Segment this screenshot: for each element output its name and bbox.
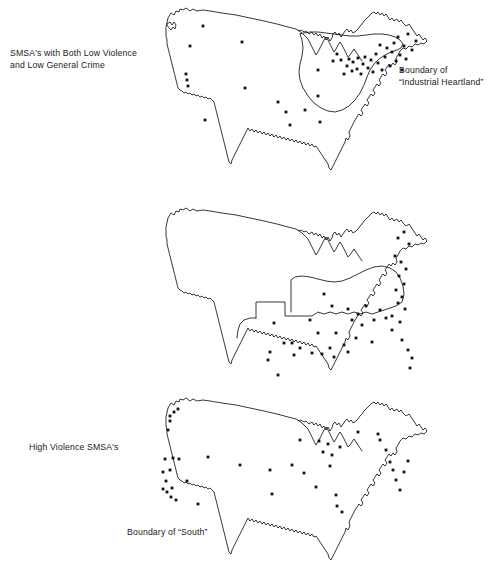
smsa-dot (405, 268, 408, 271)
smsa-dot (311, 352, 314, 355)
smsa-dot (283, 342, 286, 345)
smsa-dot (239, 464, 242, 467)
great-lakes-path (298, 230, 362, 261)
smsa-dot (175, 499, 178, 502)
smsa-dot (293, 354, 296, 357)
smsa-dot (347, 308, 350, 311)
smsa-dot (291, 342, 294, 345)
us-outline-path (166, 398, 427, 560)
smsa-dot (273, 322, 276, 325)
smsa-dot (364, 56, 367, 59)
us-outline-path (166, 8, 427, 170)
smsa-dot (329, 465, 332, 468)
smsa-dot (162, 471, 165, 474)
smsa-dot (397, 302, 400, 305)
smsa-dot (333, 356, 336, 359)
smsa-dot (185, 73, 188, 76)
smsa-dot (241, 41, 244, 44)
smsa-dot (336, 53, 339, 56)
smsa-dot (319, 121, 322, 124)
smsa-dot (360, 73, 363, 76)
smsa-dot (356, 68, 359, 71)
smsa-dot (164, 458, 167, 461)
smsa-dot (403, 45, 406, 48)
smsa-dot (399, 321, 402, 324)
smsa-dot (385, 317, 388, 320)
smsa-dot (341, 511, 344, 514)
smsa-dot (331, 305, 334, 308)
smsa-dot (167, 429, 170, 432)
smsa-dot (375, 53, 378, 56)
smsa-dot (409, 367, 412, 370)
smsa-dot (343, 73, 346, 76)
smsa-dot (401, 339, 404, 342)
smsa-dot (408, 243, 411, 246)
smsa-dot (395, 289, 398, 292)
smsa-dot (165, 480, 168, 483)
smsa-dot (162, 488, 165, 491)
smsa-dot (372, 71, 375, 74)
smsa-dot (407, 33, 410, 36)
smsa-dot (415, 40, 418, 43)
smsa-dot (186, 79, 189, 82)
smsa-dot (352, 61, 355, 64)
panel-0-side-label: Boundary of “Industrial Heartland” (399, 65, 483, 88)
smsa-dot (318, 440, 321, 443)
smsa-dot (299, 347, 302, 350)
smsa-dot (315, 486, 318, 489)
smsa-dot (403, 283, 406, 286)
smsa-dot (178, 458, 181, 461)
smsa-dot (277, 374, 280, 377)
smsa-dot (400, 261, 403, 264)
smsa-dot (391, 51, 394, 54)
smsa-dot (187, 85, 190, 88)
smsa-dot (371, 341, 374, 344)
smsa-dot (381, 69, 384, 72)
smsa-dot (177, 408, 180, 411)
smsa-dot (407, 349, 410, 352)
smsa-dot (386, 47, 389, 50)
us-map-svg-panel-0 (0, 0, 499, 192)
smsa-dot (304, 109, 307, 112)
great-lakes-path (298, 420, 362, 451)
south-region-boundary-west (237, 318, 256, 338)
crime-maps-figure: SMSA's with Both Low Violence and Low Ge… (0, 0, 499, 576)
great-lakes-path (298, 30, 362, 61)
smsa-dot (317, 332, 320, 335)
smsa-dot (336, 505, 339, 508)
smsa-dot (411, 49, 414, 52)
smsa-dot (204, 119, 207, 122)
smsa-dot (355, 337, 358, 340)
smsa-dot (335, 332, 338, 335)
map-panel-low-crime: SMSA's with Both Low Violence and Low Ge… (0, 0, 499, 192)
smsa-dot (379, 309, 382, 312)
smsa-dot-group-panel-1 (267, 231, 414, 377)
smsa-dot (397, 237, 400, 240)
smsa-dot (398, 275, 401, 278)
smsa-dot (271, 493, 274, 496)
smsa-dot (365, 305, 368, 308)
smsa-dot (332, 60, 335, 63)
map-panel-high-violence: High Violence SMSA's Boundary of “South” (0, 190, 499, 385)
smsa-dot (403, 471, 406, 474)
smsa-dot (377, 433, 380, 436)
smsa-dot (322, 451, 325, 454)
smsa-dot (202, 25, 205, 28)
smsa-dot (169, 420, 172, 423)
smsa-dot (173, 411, 176, 414)
smsa-dot (379, 44, 382, 47)
smsa-dot (197, 503, 200, 506)
smsa-dot (335, 494, 338, 497)
smsa-dot (339, 446, 342, 449)
smsa-dot (407, 460, 410, 463)
smsa-dot (169, 469, 172, 472)
smsa-dot (303, 472, 306, 475)
panel-0-main-label: SMSA's with Both Low Violence and Low Ge… (10, 48, 137, 71)
smsa-dot (172, 457, 175, 460)
smsa-dot (269, 351, 272, 354)
smsa-dot (207, 456, 210, 459)
smsa-dot (351, 70, 354, 73)
smsa-dot (389, 461, 392, 464)
smsa-dot (327, 443, 330, 446)
smsa-dot (403, 231, 406, 234)
